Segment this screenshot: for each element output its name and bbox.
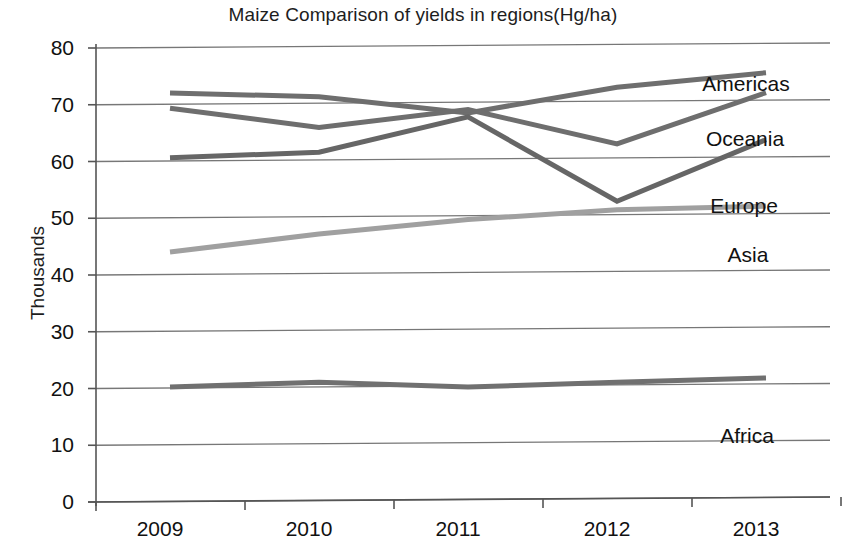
x-tick-label: 2012 — [547, 518, 667, 539]
x-tick-label: 2013 — [696, 518, 816, 539]
series-label-africa: Africa — [720, 425, 774, 446]
series-label-asia: Asia — [728, 244, 769, 265]
x-tick-label: 2009 — [100, 518, 220, 539]
y-tick-label: 60 — [14, 151, 74, 172]
x-tick-label: 2010 — [249, 518, 369, 539]
series-line-americas[interactable] — [170, 73, 766, 113]
series-label-americas: Americas — [702, 73, 790, 94]
gridline — [96, 43, 830, 48]
y-tick-label: 50 — [14, 207, 74, 228]
gridline — [96, 327, 830, 332]
y-tick-label: 30 — [14, 321, 74, 342]
series-label-europe: Europe — [710, 195, 778, 216]
series-lines-group — [170, 73, 766, 387]
x-tick-label: 2011 — [398, 518, 518, 539]
y-tick-label: 40 — [14, 264, 74, 285]
y-tick-label: 10 — [14, 434, 74, 455]
gridline — [96, 100, 830, 105]
chart-container: Maize Comparison of yields in regions(Hg… — [0, 0, 846, 560]
series-line-asia[interactable] — [170, 206, 766, 252]
y-tick-label: 0 — [14, 491, 74, 512]
y-tick-label: 20 — [14, 378, 74, 399]
y-tick-label: 80 — [14, 37, 74, 58]
y-tick-label: 70 — [14, 94, 74, 115]
series-label-oceania: Oceania — [706, 128, 784, 149]
series-line-africa[interactable] — [170, 378, 766, 387]
gridline — [96, 270, 830, 275]
